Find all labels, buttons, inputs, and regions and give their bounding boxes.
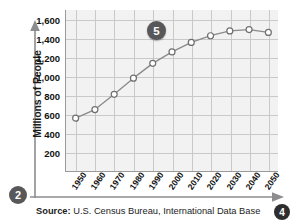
x-axis-tick-label: 2050 xyxy=(263,170,282,191)
y-axis-tick-label: 400 xyxy=(22,128,60,139)
x-axis-tick-label: 2030 xyxy=(224,170,243,191)
data-point-marker xyxy=(73,115,79,121)
x-axis-tick-label: 1980 xyxy=(127,170,146,191)
data-point-marker xyxy=(265,29,271,35)
x-axis-tick-labels: 1950196019701980199020002010202020302040… xyxy=(65,172,278,204)
data-point-marker xyxy=(169,49,175,55)
x-axis-tick-label: 2040 xyxy=(243,170,262,191)
y-axis-tick-label: 600 xyxy=(22,109,60,120)
y-axis-tick-label: 1,400 xyxy=(22,33,60,44)
data-point-marker xyxy=(150,60,156,66)
data-point-marker xyxy=(130,75,136,81)
callout-badge-5: 5 xyxy=(147,21,166,40)
data-point-marker xyxy=(208,33,214,39)
y-axis-tick-labels: 2004006008001,0001,2001,4001,600 xyxy=(22,8,60,176)
source-text: U.S. Census Bureau, International Data B… xyxy=(73,206,260,216)
x-axis-tick-label: 2000 xyxy=(166,170,185,191)
y-axis-tick-label: 200 xyxy=(22,147,60,158)
data-series-population xyxy=(66,10,278,172)
y-axis-tick-label: 1,600 xyxy=(22,14,60,25)
callout-badge-5-label: 5 xyxy=(153,25,159,37)
data-point-marker xyxy=(92,107,98,113)
x-axis-tick-label: 2020 xyxy=(205,170,224,191)
y-axis-tick-label: 1,000 xyxy=(22,71,60,82)
source-label: Source: xyxy=(36,206,71,216)
data-point-marker xyxy=(227,28,233,34)
x-axis-tick-label: 1950 xyxy=(69,170,88,191)
callout-badge-4-label: 4 xyxy=(279,207,285,218)
series-line xyxy=(76,30,269,119)
data-point-marker xyxy=(111,91,117,97)
x-axis-tick-label: 1990 xyxy=(147,170,166,191)
callout-badge-2: 2 xyxy=(9,186,27,204)
population-line-chart-figure: 2 Millions of People 2004006008001,0001,… xyxy=(0,0,300,224)
source-line: Source: U.S. Census Bureau, Internationa… xyxy=(36,206,260,216)
x-axis-tick-label: 1960 xyxy=(89,170,108,191)
plot-area xyxy=(65,10,278,172)
y-axis-tick-label: 800 xyxy=(22,90,60,101)
callout-badge-2-label: 2 xyxy=(15,189,21,201)
data-point-marker xyxy=(188,39,194,45)
callout-badge-4: 4 xyxy=(274,204,290,220)
x-axis-tick-label: 1970 xyxy=(108,170,127,191)
x-axis-tick-label: 2010 xyxy=(185,170,204,191)
data-point-marker xyxy=(246,27,252,33)
y-axis-tick-label: 1,200 xyxy=(22,52,60,63)
